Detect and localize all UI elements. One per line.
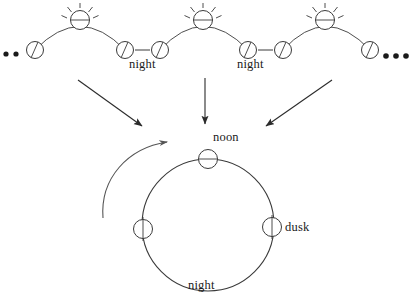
- cycle-marker-midnight: [134, 217, 153, 241]
- cycle-circle-group: [134, 150, 282, 292]
- planet-marker-3: [152, 42, 169, 59]
- planet-marker-4: [240, 42, 257, 59]
- sun-icon-3: [307, 3, 344, 30]
- cycle-marker-noon: [199, 150, 218, 169]
- planet-marker-5: [275, 42, 292, 59]
- sun-icon-1: [62, 3, 99, 30]
- left-ellipsis-dots: [3, 51, 18, 56]
- night-label-cycle: night: [188, 278, 215, 293]
- dusk-label: dusk: [285, 220, 309, 235]
- day-arc-3: [283, 27, 370, 51]
- night-label-top-1: night: [129, 57, 156, 72]
- connector-arrows: [78, 78, 332, 126]
- night-label-top-2: night: [237, 57, 264, 72]
- noon-label: noon: [213, 130, 239, 145]
- day-night-cycle-illustration: [0, 0, 413, 307]
- planet-marker-2: [117, 42, 134, 59]
- day-arc-2: [160, 27, 248, 51]
- cycle-marker-dusk: [263, 215, 282, 239]
- planet-marker-1: [27, 42, 44, 59]
- top-row-group: [27, 3, 379, 59]
- rotation-arrow-icon: [103, 142, 167, 218]
- right-ellipsis-dots: [383, 53, 409, 59]
- day-arc-1: [35, 27, 125, 51]
- cycle-circle: [142, 159, 274, 291]
- sun-icon-2: [185, 3, 222, 30]
- arrow-right: [266, 80, 332, 126]
- arrow-left: [78, 80, 142, 126]
- planet-marker-6: [362, 42, 379, 59]
- diagram-canvas: night night noon dusk night: [0, 0, 413, 307]
